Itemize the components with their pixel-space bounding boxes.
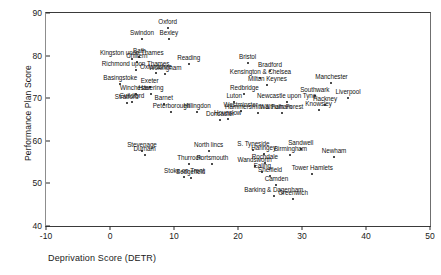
- x-tick-label-30: 30: [297, 231, 306, 241]
- x-tick-mark-20: [238, 226, 239, 230]
- data-point: [292, 198, 294, 200]
- x-tick-mark-40: [366, 226, 367, 230]
- y-tick-mark-50: [46, 183, 50, 184]
- scatter-chart: Performance Plan Score Deprivation Score…: [0, 0, 441, 275]
- y-tick-mark-70: [46, 98, 50, 99]
- x-tick-label-50: 50: [425, 231, 434, 241]
- data-point-label: Newham: [322, 148, 347, 155]
- data-point-label: Waltham Forest: [260, 104, 304, 111]
- data-point-label: Chiltern: [126, 53, 147, 60]
- data-point: [141, 38, 143, 40]
- data-point-label: Sheffield: [258, 167, 282, 174]
- data-point-label: Havering: [139, 85, 164, 92]
- data-point: [347, 97, 349, 99]
- plot-area: 405060708090 -1001020304050 OxfordSwindo…: [45, 12, 431, 227]
- data-point: [190, 177, 192, 179]
- data-point: [330, 82, 332, 84]
- data-point: [281, 112, 283, 114]
- data-point-label: Kensington & Chelsea: [230, 69, 291, 76]
- data-point-label: Birmingham: [274, 147, 307, 154]
- y-tick-mark-40: [46, 226, 50, 227]
- y-tick-mark-90: [46, 13, 50, 14]
- y-tick-label-90: 90: [33, 8, 42, 18]
- data-point-label: Camden: [265, 177, 289, 184]
- x-tick-label-20: 20: [233, 231, 242, 241]
- data-point: [208, 150, 210, 152]
- data-point: [211, 163, 213, 165]
- data-point-label: Liverpool: [336, 90, 361, 97]
- data-point-label: Basingstoke: [103, 75, 137, 82]
- data-point: [188, 163, 190, 165]
- data-point: [131, 101, 133, 103]
- data-point: [243, 93, 245, 95]
- data-point: [168, 38, 170, 40]
- data-point-label: Wokingham: [149, 66, 182, 73]
- data-point: [135, 69, 137, 71]
- y-tick-label-40: 40: [33, 221, 42, 231]
- x-axis-title: Deprivation Score (DETR): [48, 253, 268, 263]
- data-point: [318, 109, 320, 111]
- y-axis-title: Performance Plan Score: [23, 33, 33, 193]
- data-point-label: Swindon: [130, 30, 154, 37]
- data-point-label: Sedgefield: [176, 170, 205, 177]
- data-point: [257, 112, 259, 114]
- data-point: [126, 102, 128, 104]
- data-point: [219, 119, 221, 121]
- data-point-label: Stratford: [115, 95, 139, 102]
- y-tick-label-70: 70: [33, 93, 42, 103]
- data-point-label: Barnet: [155, 96, 173, 103]
- data-point: [183, 176, 185, 178]
- y-tick-label-50: 50: [33, 178, 42, 188]
- data-point-label: Hillingdon: [183, 103, 210, 110]
- y-tick-mark-80: [46, 55, 50, 56]
- data-point: [164, 73, 166, 75]
- data-point: [227, 118, 229, 120]
- x-tick-mark-30: [302, 226, 303, 230]
- x-tick-mark-0: [110, 226, 111, 230]
- x-tick-mark--10: [46, 226, 47, 230]
- data-point: [170, 111, 172, 113]
- x-tick-label-10: 10: [169, 231, 178, 241]
- data-point-label: Bristol: [239, 55, 256, 62]
- data-point-label: Luton: [226, 94, 242, 101]
- data-point: [188, 63, 190, 65]
- data-point-label: Bexley: [160, 30, 179, 37]
- data-point-label: Greenwich: [278, 190, 308, 197]
- data-point: [311, 173, 313, 175]
- y-tick-label-80: 80: [33, 51, 42, 61]
- x-tick-label-0: 0: [108, 231, 113, 241]
- data-point: [196, 111, 198, 113]
- data-point-label: Milton Keynes: [248, 77, 287, 84]
- data-point: [289, 154, 291, 156]
- data-point: [247, 62, 249, 64]
- data-point-label: Redbridge: [230, 85, 259, 92]
- data-point-label: North lincs: [194, 142, 223, 149]
- data-point: [266, 84, 268, 86]
- x-tick-label-40: 40: [361, 231, 370, 241]
- data-point: [144, 154, 146, 156]
- data-point-label: Portsmouth: [197, 155, 229, 162]
- data-point-label: Newcastle upon Tyne: [257, 93, 316, 100]
- data-point-label: Knowsley: [305, 102, 332, 109]
- data-point-label: Oxford: [158, 19, 177, 26]
- data-point-label: Tower Hamlets: [292, 165, 333, 172]
- x-tick-mark-50: [430, 226, 431, 230]
- x-tick-label--10: -10: [40, 231, 52, 241]
- data-point-label: Manchester: [315, 74, 347, 81]
- data-point: [273, 195, 275, 197]
- data-point: [333, 156, 335, 158]
- data-point-label: Durham: [133, 147, 155, 154]
- data-point-label: Haringey: [251, 146, 276, 153]
- data-point: [150, 93, 152, 95]
- y-tick-label-60: 60: [33, 136, 42, 146]
- y-tick-mark-60: [46, 140, 50, 141]
- data-point-label: Doncaster: [206, 111, 234, 118]
- x-tick-mark-10: [174, 226, 175, 230]
- data-point-label: Reading: [177, 56, 200, 63]
